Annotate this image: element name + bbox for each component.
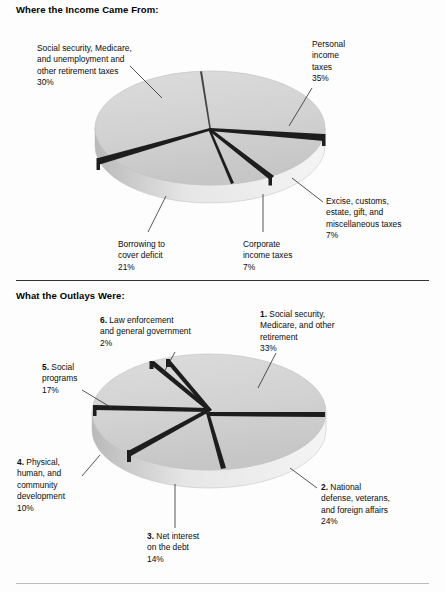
callout-social-security: Social security, Medicare, and unemploym… bbox=[37, 43, 132, 89]
callout-excise-pct: 7% bbox=[326, 230, 401, 241]
explode-tab-left bbox=[97, 158, 101, 170]
callout-personal-income: Personal income taxes35% bbox=[312, 39, 345, 85]
callout-borrowing-text: Borrowing to cover deficit bbox=[118, 239, 165, 260]
callout-2-number: 2. bbox=[321, 482, 328, 492]
callout-2-text: National defense, veterans, and foreign … bbox=[321, 482, 390, 515]
callout-corporate-text: Corporate income taxes bbox=[243, 239, 292, 260]
callout-3-text: Net interest on the debt bbox=[147, 531, 199, 552]
callout-6-pct: 2% bbox=[100, 338, 191, 349]
callout-2-pct: 24% bbox=[321, 516, 390, 527]
callout-6-number: 6. bbox=[100, 315, 107, 325]
callout-3-number: 3. bbox=[147, 531, 154, 541]
callout-personal-income-pct: 35% bbox=[312, 73, 345, 84]
callout-4-physical-human: 4. Physical, human, and community develo… bbox=[17, 457, 65, 514]
figure-page: Where the Income Came From: bbox=[0, 0, 445, 592]
explode-tab-lower-right bbox=[269, 175, 273, 186]
callout-4-number: 4. bbox=[17, 457, 24, 467]
bottom-rule bbox=[16, 583, 429, 584]
callout-borrowing-pct: 21% bbox=[118, 262, 165, 273]
section-divider bbox=[16, 280, 429, 281]
pie-chart-income: Social security, Medicare, and unemploym… bbox=[0, 16, 445, 278]
page-title-income: Where the Income Came From: bbox=[16, 4, 159, 15]
leader-borrowing bbox=[148, 196, 166, 232]
callout-personal-income-text: Personal income taxes bbox=[312, 39, 345, 72]
explode-tab-left-outlays bbox=[93, 405, 97, 416]
callout-corporate-pct: 7% bbox=[243, 262, 292, 273]
callout-social-security-text: Social security, Medicare, and unemploym… bbox=[37, 43, 132, 76]
callout-4-pct: 10% bbox=[17, 503, 65, 514]
callout-1-pct: 33% bbox=[260, 343, 335, 354]
callout-6-text: Law enforcement and general government bbox=[100, 315, 191, 336]
callout-social-security-pct: 30% bbox=[37, 77, 132, 88]
explode-tab-upper-left-outlays bbox=[150, 361, 154, 369]
callout-5-pct: 17% bbox=[42, 385, 77, 396]
leader-excise bbox=[292, 178, 323, 202]
leader-4-physical bbox=[82, 455, 100, 476]
callout-6-law-enforcement: 6. Law enforcement and general governmen… bbox=[100, 315, 191, 349]
callout-1-number: 1. bbox=[260, 309, 267, 319]
callout-5-social-programs: 5. Social programs17% bbox=[42, 362, 77, 396]
pie-chart-outlays-svg bbox=[0, 300, 445, 582]
callout-excise: Excise, customs, estate, gift, and misce… bbox=[326, 196, 401, 242]
leader-2-national-defense bbox=[290, 468, 317, 488]
callout-borrowing: Borrowing to cover deficit21% bbox=[118, 239, 165, 273]
explode-tab-right bbox=[322, 134, 326, 146]
callout-4-text: Physical, human, and community developme… bbox=[17, 457, 65, 501]
callout-1-social-security: 1. Social security, Medicare, and other … bbox=[260, 309, 335, 355]
callout-3-net-interest: 3. Net interest on the debt14% bbox=[147, 531, 199, 565]
callout-corporate: Corporate income taxes7% bbox=[243, 239, 292, 273]
callout-5-number: 5. bbox=[42, 362, 49, 372]
callout-2-national-defense: 2. National defense, veterans, and forei… bbox=[321, 482, 390, 528]
callout-3-pct: 14% bbox=[147, 554, 199, 565]
callout-1-text: Social security, Medicare, and other ret… bbox=[260, 309, 335, 342]
explode-tab-lower-left-outlays bbox=[127, 450, 131, 462]
callout-excise-text: Excise, customs, estate, gift, and misce… bbox=[326, 196, 401, 229]
pie-chart-outlays: 1. Social security, Medicare, and other … bbox=[0, 300, 445, 582]
